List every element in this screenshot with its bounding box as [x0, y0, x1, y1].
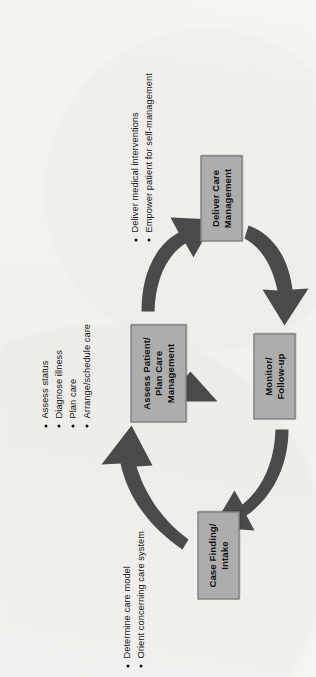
node-assess-line1: Assess Patient/: [140, 337, 152, 409]
bullet-item: Assess status: [38, 323, 52, 427]
bullet-item: Orient concerning care system: [134, 530, 148, 667]
node-case-line1: Case Finding/: [206, 523, 218, 587]
node-case-line2: Intake: [218, 523, 230, 587]
bullet-item: Arrange/schedule care: [80, 323, 94, 427]
node-deliver-care-management[interactable]: Deliver Care Management: [200, 155, 242, 241]
bullet-item: Determine care model: [120, 530, 134, 667]
bullet-item: Plan care: [66, 323, 80, 427]
node-assess-line3: Management: [164, 337, 176, 409]
node-deliver-line1: Deliver Care: [209, 168, 221, 228]
bullet-item: Diagnose illness: [52, 323, 66, 427]
arrow-deliver-to-monitor: [244, 225, 308, 325]
node-case-finding-intake[interactable]: Case Finding/ Intake: [197, 511, 239, 599]
node-assess-line2: Plan Care: [152, 337, 164, 409]
node-monitor-line1: Monitor/: [262, 353, 274, 399]
bullets-case-finding: Determine care model Orient concerning c…: [120, 530, 148, 667]
node-monitor-line2: Follow-up: [274, 353, 286, 399]
node-assess-patient-plan-care-management[interactable]: Assess Patient/ Plan Care Management: [130, 324, 186, 422]
node-monitor-follow-up[interactable]: Monitor/ Follow-up: [253, 333, 295, 419]
bullet-item: Deliver medical interventions: [128, 73, 142, 241]
bullets-assess-patient: Assess status Diagnose illness Plan care…: [38, 323, 94, 427]
diagram-canvas: Case Finding/ Intake Assess Patient/ Pla…: [0, 0, 316, 677]
node-deliver-line2: Management: [221, 168, 233, 228]
bullets-deliver-care: Deliver medical interventions Empower pa…: [128, 73, 156, 241]
bullet-item: Empower patient for self-management: [142, 73, 156, 241]
